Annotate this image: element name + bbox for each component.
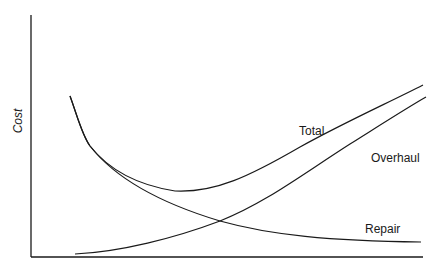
overhaul-label: Overhaul: [371, 151, 420, 165]
total-label: Total: [299, 124, 324, 138]
repair-label: Repair: [365, 222, 400, 236]
y-axis-label: Cost: [11, 106, 25, 136]
total-curve: [70, 85, 423, 191]
repair-curve: [70, 96, 421, 242]
